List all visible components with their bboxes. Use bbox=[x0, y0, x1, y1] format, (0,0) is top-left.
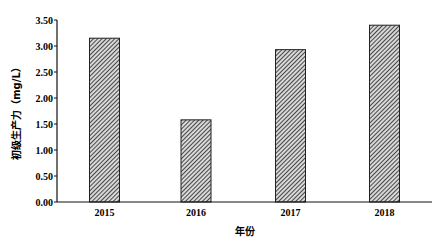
bar-2018 bbox=[370, 25, 400, 202]
x-tick-label: 2016 bbox=[186, 207, 206, 218]
y-tick-label: 0.50 bbox=[36, 171, 54, 182]
y-tick-label: 0.00 bbox=[36, 197, 54, 208]
x-axis: 2015201620172018 bbox=[57, 202, 432, 218]
y-axis: 0.000.501.001.502.002.503.003.50 bbox=[36, 15, 58, 208]
x-axis-title: 年份 bbox=[235, 225, 256, 237]
bar-chart: 0.000.501.001.502.002.503.003.50 2015201… bbox=[0, 0, 444, 249]
x-tick-label: 2015 bbox=[95, 207, 115, 218]
y-axis-title: 初级生产力（mg/L） bbox=[10, 62, 22, 160]
bar-2017 bbox=[276, 50, 306, 202]
bars-group bbox=[90, 25, 400, 202]
x-tick-label: 2017 bbox=[281, 207, 301, 218]
y-tick-label: 1.50 bbox=[36, 119, 54, 130]
y-tick-label: 3.50 bbox=[36, 15, 54, 26]
x-tick-label: 2018 bbox=[375, 207, 395, 218]
bar-2016 bbox=[181, 120, 211, 202]
y-tick-label: 1.00 bbox=[36, 145, 54, 156]
y-tick-label: 2.50 bbox=[36, 67, 54, 78]
y-tick-label: 3.00 bbox=[36, 41, 54, 52]
bar-2015 bbox=[90, 38, 120, 202]
y-tick-label: 2.00 bbox=[36, 93, 54, 104]
